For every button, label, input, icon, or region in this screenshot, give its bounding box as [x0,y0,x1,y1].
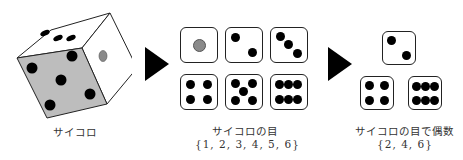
die-face-4 [360,76,394,110]
die-face-1 [180,27,218,63]
die-face-5 [225,74,263,110]
outcomes-caption: サイコロの目 [205,123,285,138]
die-face-4 [180,74,218,110]
outcomes-set: {1, 2, 3, 4, 5, 6} [195,138,295,150]
arrow-1 [145,47,169,81]
die-face-6 [408,76,442,110]
arrow-2 [328,47,352,81]
even-faces [358,27,448,113]
die-face-2 [382,31,416,65]
die-face-3 [270,27,308,63]
die-face-2 [225,27,263,63]
die-3d [12,8,132,123]
even-set: {2, 4, 6} [370,138,440,150]
even-caption: サイコロの目で偶数 [350,123,458,138]
die-caption: サイコロ [50,124,100,139]
die-face-6 [270,74,308,110]
outcome-faces [180,27,310,113]
